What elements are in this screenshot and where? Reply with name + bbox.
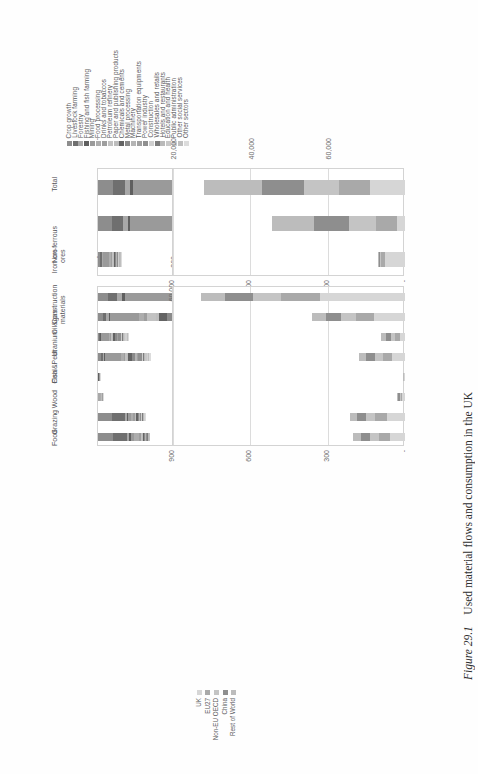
stacked-bar	[98, 413, 146, 421]
bar-segment	[357, 413, 366, 421]
legend-item-region: UK	[196, 690, 203, 707]
legend-item-region: EU27	[205, 690, 212, 714]
bar-segment	[379, 433, 389, 441]
figure-number: Figure 29.1	[462, 626, 474, 680]
stacked-bar	[98, 333, 129, 341]
legend-item-label: EU27	[205, 698, 212, 714]
bar-segment	[356, 313, 374, 321]
legend-swatch-icon	[205, 690, 210, 695]
category-label: Total	[51, 177, 85, 192]
bar-segment	[204, 180, 262, 195]
stacked-bar	[381, 333, 405, 341]
bar-segment	[108, 293, 117, 301]
axis-tick-label: 600	[245, 450, 252, 462]
gridline	[173, 169, 174, 275]
bar-segment	[225, 293, 253, 301]
axis-tick-label: -	[400, 280, 407, 282]
bar-segment	[361, 433, 370, 441]
legend-swatch-icon	[214, 690, 219, 695]
bar-segment	[392, 353, 405, 361]
bar-segment	[128, 333, 129, 341]
stacked-bar	[397, 393, 405, 401]
stacked-bar	[98, 373, 100, 381]
legend-item-label: China	[222, 698, 229, 714]
bar-segment	[366, 353, 375, 361]
bar-segment	[147, 313, 156, 321]
chart-panel	[172, 286, 404, 446]
bar-segment	[326, 313, 340, 321]
axis-tick-label: 60,000	[325, 138, 332, 159]
bar-segment	[339, 180, 370, 195]
bar-segment	[366, 413, 375, 421]
bar-segment	[101, 333, 109, 341]
axis-tick-label: -	[93, 138, 100, 140]
bar-segment	[383, 353, 392, 361]
bar-segment	[402, 393, 405, 401]
stacked-bar	[359, 353, 405, 361]
bar-segment	[349, 216, 376, 231]
category-label: Iron ore	[51, 249, 85, 273]
legend-swatch-icon	[231, 690, 236, 695]
stacked-bar	[403, 373, 405, 381]
bar-segment	[400, 333, 405, 341]
category-label: Food	[51, 430, 85, 446]
bar-segment	[350, 413, 358, 421]
legend-swatch-icon	[184, 141, 189, 146]
legend-item-region: Non-EU OECD	[213, 690, 220, 740]
sector-legend: Crop growthLivestock farmingForestryFish…	[66, 6, 192, 146]
bar-segment	[390, 433, 405, 441]
category-label: Wood	[51, 390, 85, 408]
bar-segment	[385, 252, 405, 267]
axis-tick-label: 900	[168, 450, 175, 462]
bar-segment	[201, 293, 224, 301]
bar-segment	[320, 293, 405, 301]
legend-item-label: Rest of World	[230, 698, 237, 736]
axis-tick-label: 40,000	[248, 138, 255, 159]
stacked-bar	[98, 393, 104, 401]
legend-swatch-icon	[197, 690, 202, 695]
bar-segment	[370, 433, 379, 441]
stacked-bar	[272, 216, 405, 231]
stacked-bar	[98, 433, 150, 441]
legend-item-label: UK	[196, 698, 203, 707]
bar-segment	[341, 313, 356, 321]
stacked-bar	[353, 433, 405, 441]
stacked-bar	[98, 252, 121, 267]
bar-segment	[359, 353, 367, 361]
bar-segment	[374, 313, 405, 321]
bar-segment	[262, 180, 305, 195]
bar-segment	[314, 216, 349, 231]
bar-segment	[370, 180, 405, 195]
axis-tick-label: -	[400, 450, 407, 452]
gridline	[173, 287, 174, 445]
gridline	[328, 287, 329, 445]
figure-page: Crop growthLivestock farmingForestryFish…	[0, 0, 478, 774]
bar-segment	[113, 433, 126, 441]
legend-item-region: Rest of World	[230, 690, 237, 736]
legend-item-region: China	[222, 690, 229, 714]
figure-caption: Figure 29.1 Used material flows and cons…	[462, 392, 474, 680]
bar-segment	[312, 313, 326, 321]
bar-segment	[353, 433, 361, 441]
stacked-bar	[204, 180, 405, 195]
bar-segment	[98, 413, 112, 421]
stacked-bar	[350, 413, 405, 421]
legend-item-sector: Other sectors	[183, 99, 190, 146]
bar-segment	[304, 180, 339, 195]
bar-segment	[376, 216, 397, 231]
bar-segment	[159, 313, 167, 321]
bar-segment	[272, 216, 315, 231]
bar-segment	[375, 353, 383, 361]
legend-item-label: Non-EU OECD	[213, 698, 220, 740]
bar-segment	[113, 180, 124, 195]
bar-segment	[110, 313, 139, 321]
stacked-bar	[378, 252, 405, 267]
category-label: Fish	[51, 370, 85, 383]
legend-swatch-icon	[223, 690, 228, 695]
stacked-bar	[98, 353, 151, 361]
bar-segment	[105, 353, 121, 361]
bar-segment	[397, 216, 405, 231]
bar-segment	[281, 293, 320, 301]
bar-segment	[375, 413, 387, 421]
legend-item-label: Other sectors	[183, 99, 190, 138]
